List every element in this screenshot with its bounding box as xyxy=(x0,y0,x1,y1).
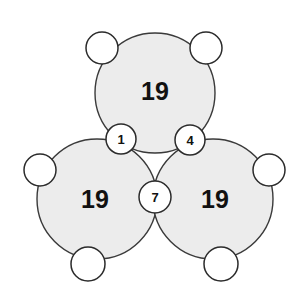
big-circle-bottom-left-label: 19 xyxy=(81,185,109,213)
circle-puzzle-diagram: 19 19 19 1 4 7 xyxy=(0,0,306,300)
node-four-label: 4 xyxy=(186,133,194,148)
node-top-right-circle[interactable] xyxy=(190,32,222,64)
big-circle-group xyxy=(37,33,273,259)
node-bottom-right-circle[interactable] xyxy=(204,247,238,281)
node-right-circle[interactable] xyxy=(253,154,285,186)
node-top-left-circle[interactable] xyxy=(86,32,118,64)
node-left-circle[interactable] xyxy=(24,154,56,186)
big-circle-top-label: 19 xyxy=(141,77,169,105)
big-circle-bottom-right-label: 19 xyxy=(201,185,229,213)
puzzle-canvas: 19 19 19 1 4 7 xyxy=(0,0,306,300)
node-bottom-left-circle[interactable] xyxy=(71,247,105,281)
node-one-label: 1 xyxy=(117,132,124,147)
node-seven-label: 7 xyxy=(151,190,158,205)
